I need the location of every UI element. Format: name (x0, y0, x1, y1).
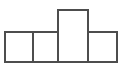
cell-left-square (5, 32, 33, 62)
cell-middle-left-square (33, 32, 58, 62)
cell-right-square (88, 32, 117, 62)
figure-line-drawing (0, 0, 124, 76)
cell-center-tall-rectangle (58, 10, 88, 62)
